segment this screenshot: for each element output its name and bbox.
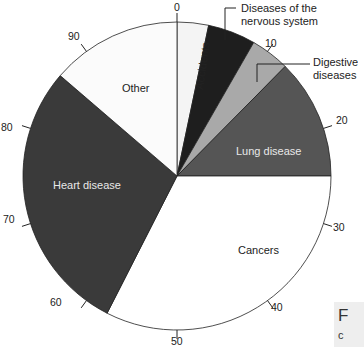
label-digestive-1: Digestive <box>313 56 358 68</box>
pie-slices <box>23 22 331 330</box>
tick-mark <box>81 301 86 308</box>
tick-30: 30 <box>333 221 345 233</box>
tick-mark <box>323 224 332 227</box>
tick-70: 70 <box>3 213 15 225</box>
label-nervous-1: Diseases of the <box>241 2 317 14</box>
label-heart: Heart disease <box>53 179 121 191</box>
tick-0: 0 <box>174 1 180 13</box>
label-nervous-2: nervous system <box>241 15 318 27</box>
tick-mark <box>22 126 31 129</box>
tick-90: 90 <box>68 30 80 42</box>
tick-80: 80 <box>1 121 13 133</box>
tick-mark <box>323 126 332 129</box>
label-other: Other <box>122 82 150 94</box>
caption-line-1: F <box>338 306 348 326</box>
tick-mark <box>22 224 31 227</box>
tick-50: 50 <box>171 335 183 347</box>
tick-40: 40 <box>271 301 283 313</box>
label-digestive-2: diseases <box>313 69 357 81</box>
tick-20: 20 <box>336 114 348 126</box>
caption-box: F c <box>334 302 364 347</box>
label-cancers: Cancers <box>238 244 279 256</box>
tick-60: 60 <box>50 296 62 308</box>
tick-mark <box>81 44 86 51</box>
tick-10: 10 <box>265 37 277 49</box>
caption-line-2: c <box>338 329 344 341</box>
label-lung: Lung disease <box>236 145 301 157</box>
